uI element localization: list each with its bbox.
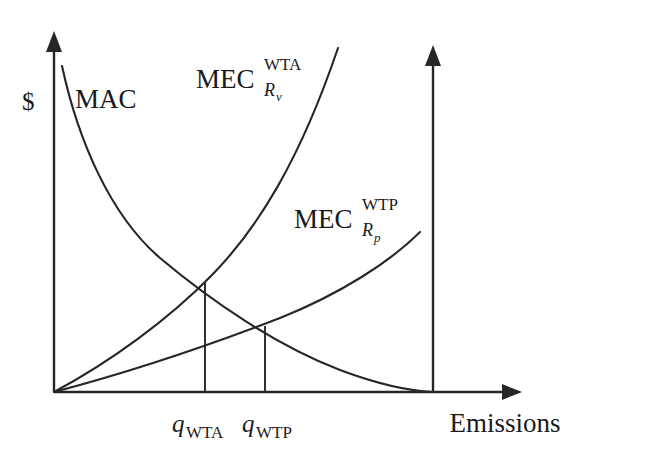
mac-curve bbox=[62, 66, 433, 392]
mec-wta-label-subscript-second: v bbox=[276, 89, 282, 104]
y-axis-arrow-icon bbox=[46, 31, 62, 52]
mec-wtp-label-subscript-second: p bbox=[373, 230, 381, 245]
q-wta-symbol: q bbox=[172, 410, 185, 437]
figure-canvas: $ MAC MEC WTA R v MEC WTP R p q WTA q WT… bbox=[0, 0, 651, 460]
q-wta-subscript: WTA bbox=[186, 423, 224, 442]
q-wtp-subscript: WTP bbox=[256, 423, 292, 442]
mec-wtp-label-subscript: R bbox=[361, 220, 373, 240]
mec-wta-label-superscript: WTA bbox=[264, 55, 302, 74]
x-axis-label: Emissions bbox=[449, 408, 560, 438]
mec-wtp-curve bbox=[54, 232, 420, 392]
economics-diagram: $ MAC MEC WTA R v MEC WTP R p q WTA q WT… bbox=[0, 0, 651, 460]
mec-wta-label: MEC WTA R v bbox=[196, 55, 302, 104]
q-wtp-axis-label: q WTP bbox=[242, 410, 292, 442]
q-wtp-symbol: q bbox=[242, 410, 255, 437]
mec-wtp-label: MEC WTP R p bbox=[294, 195, 398, 245]
mec-wta-label-subscript: R bbox=[263, 80, 275, 100]
unregulated-emissions-arrow-icon bbox=[425, 45, 441, 66]
mec-wtp-label-base: MEC bbox=[294, 204, 353, 234]
y-axis-label: $ bbox=[22, 88, 35, 115]
q-wta-axis-label: q WTA bbox=[172, 410, 224, 442]
mec-wtp-label-superscript: WTP bbox=[362, 195, 398, 214]
mac-curve-label: MAC bbox=[75, 84, 137, 114]
x-axis-arrow-icon bbox=[502, 384, 522, 400]
mec-wta-label-base: MEC bbox=[196, 64, 255, 94]
